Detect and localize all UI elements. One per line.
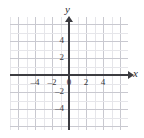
x-tick-label: –4: [28, 78, 42, 87]
x-tick-label: 0: [62, 78, 76, 87]
x-tick-label: 4: [96, 78, 110, 87]
y-tick-label: –2: [52, 87, 64, 96]
x-axis-line: [10, 74, 131, 76]
coordinate-plane-figure: y x –4–2024 42–2–4: [0, 0, 144, 138]
y-axis-line: [68, 20, 70, 130]
y-tick-label: 2: [52, 53, 64, 62]
y-axis-arrow-icon: [65, 16, 73, 22]
x-axis-label: x: [133, 68, 138, 79]
x-tick-label: 2: [79, 78, 93, 87]
y-tick-label: 4: [52, 36, 64, 45]
y-tick-label: –4: [52, 104, 64, 113]
y-axis-label: y: [65, 4, 70, 15]
